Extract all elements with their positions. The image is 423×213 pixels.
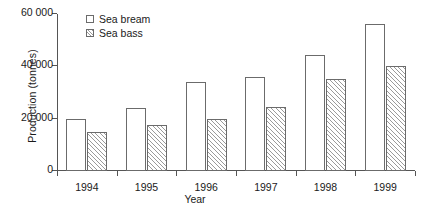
x-tick-mark <box>236 171 237 176</box>
y-tick-label: 20 000 <box>21 111 53 123</box>
x-tick-mark <box>117 171 118 176</box>
y-tick: 60 000 <box>57 13 58 14</box>
y-tick: 20 000 <box>57 118 58 119</box>
x-tick-mark <box>296 171 297 176</box>
legend-item-sea-bream: Sea bream <box>86 12 150 26</box>
bar-1997-sea-bass <box>266 107 286 171</box>
y-tick-label: 40 000 <box>21 58 53 70</box>
bar-1999-sea-bass <box>386 66 406 171</box>
x-tick-mark <box>57 171 58 176</box>
legend-label-sea-bream: Sea bream <box>99 14 150 25</box>
bar-1994-sea-bass <box>87 132 107 171</box>
x-tick-label-1996: 1996 <box>177 181 235 193</box>
bar-1998-sea-bass <box>326 79 346 171</box>
legend-label-sea-bass: Sea bass <box>99 28 143 39</box>
y-tick-label: 0 <box>47 163 53 175</box>
bar-1995-sea-bream <box>126 108 146 171</box>
y-tick-label: 60 000 <box>21 6 53 18</box>
y-axis-line <box>57 14 58 171</box>
bar-1994-sea-bream <box>66 119 86 171</box>
x-tick-label-1998: 1998 <box>297 181 355 193</box>
bar-1998-sea-bream <box>305 55 325 171</box>
legend-swatch-sea-bream-icon <box>86 15 94 23</box>
x-axis-title: Year <box>150 193 240 205</box>
production-bar-chart: Production (tonnes) Year 020 00040 00060… <box>0 0 423 213</box>
x-tick-label-1997: 1997 <box>237 181 295 193</box>
bar-1995-sea-bass <box>147 125 167 171</box>
x-tick-label-1995: 1995 <box>118 181 176 193</box>
x-tick-label-1994: 1994 <box>58 181 116 193</box>
legend: Sea bream Sea bass <box>86 12 150 40</box>
x-tick-label-1999: 1999 <box>356 181 414 193</box>
legend-item-sea-bass: Sea bass <box>86 26 150 40</box>
bar-1997-sea-bream <box>245 77 265 171</box>
x-tick-mark <box>176 171 177 176</box>
bar-1996-sea-bass <box>207 119 227 171</box>
y-tick: 40 000 <box>57 65 58 66</box>
bar-1996-sea-bream <box>186 82 206 171</box>
x-tick-mark <box>355 171 356 176</box>
bar-1999-sea-bream <box>365 24 385 171</box>
x-tick-mark <box>415 171 416 176</box>
legend-swatch-sea-bass-icon <box>86 29 94 37</box>
y-axis-title: Production (tonnes) <box>26 16 38 176</box>
